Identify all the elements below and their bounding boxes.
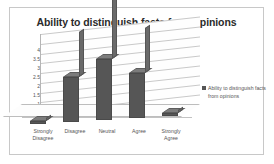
bar-strongly-disagree[interactable] bbox=[30, 121, 46, 124]
x-label-line: Disagree bbox=[26, 135, 60, 142]
bar-front bbox=[63, 77, 79, 122]
x-axis-labels: Strongly Disagree Disagree Neutral Agree… bbox=[22, 128, 212, 154]
bar-disagree[interactable] bbox=[63, 77, 79, 122]
legend-color-swatch bbox=[202, 86, 206, 90]
bar-front bbox=[96, 59, 112, 120]
bar-neutral[interactable] bbox=[96, 59, 112, 120]
x-label-disagree: Disagree bbox=[58, 128, 92, 135]
chart-frame: Ability to distinguish facts from opinio… bbox=[9, 7, 264, 155]
x-label-strongly-disagree: Strongly Disagree bbox=[26, 128, 60, 142]
x-label-line: Strongly bbox=[26, 128, 60, 135]
bar-front bbox=[162, 113, 178, 116]
legend-label: Ability to distinguish facts from opinio… bbox=[208, 84, 274, 100]
x-label-neutral: Neutral bbox=[90, 128, 124, 135]
bar-side-face bbox=[145, 25, 150, 73]
bar-side-face bbox=[112, 0, 117, 59]
gridline bbox=[41, 46, 200, 64]
plot-area bbox=[22, 34, 208, 126]
bar-front bbox=[30, 121, 46, 124]
x-label-line: Agree bbox=[154, 135, 188, 142]
gridline bbox=[41, 26, 200, 44]
bar-agree[interactable] bbox=[129, 73, 145, 118]
chart-legend[interactable]: Ability to distinguish facts from opinio… bbox=[202, 84, 274, 100]
bar-side-face bbox=[79, 29, 84, 77]
x-label-line: Strongly bbox=[154, 128, 188, 135]
gridline bbox=[41, 56, 200, 74]
x-label-strongly-agree: Strongly Agree bbox=[154, 128, 188, 142]
x-label-line: Neutral bbox=[90, 128, 124, 135]
x-label-line: Disagree bbox=[58, 128, 92, 135]
x-label-agree: Agree bbox=[122, 128, 156, 135]
x-label-line: Agree bbox=[122, 128, 156, 135]
bar-front bbox=[129, 73, 145, 118]
gridline bbox=[41, 36, 200, 54]
bar-strongly-agree[interactable] bbox=[162, 113, 178, 116]
